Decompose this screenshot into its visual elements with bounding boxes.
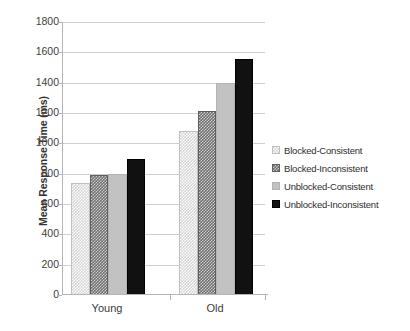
legend-label: Unblocked-Consistent: [284, 181, 373, 192]
y-tick-label: 1400: [19, 77, 59, 88]
bar-old-blocked-consistent: [179, 131, 198, 295]
legend-label: Blocked-Consistent: [284, 145, 362, 156]
legend-swatch-icon: [272, 164, 280, 172]
bar-old-blocked-inconsistent: [198, 111, 217, 295]
x-category-label: Old: [170, 302, 260, 314]
legend-swatch-icon: [272, 200, 280, 208]
bar-young-blocked-inconsistent: [90, 175, 109, 295]
legend-swatch-icon: [272, 146, 280, 154]
y-tick-label: 400: [19, 228, 59, 239]
legend-item: Unblocked-Inconsistent: [272, 196, 378, 212]
y-tick-mark: [57, 295, 62, 296]
x-axis-separator: [170, 295, 171, 300]
legend: Blocked-ConsistentBlocked-InconsistentUn…: [272, 142, 378, 214]
y-tick-label: 800: [19, 168, 59, 179]
bar-old-unblocked-consistent: [216, 83, 235, 295]
y-tick-label: 1600: [19, 46, 59, 57]
legend-item: Blocked-Consistent: [272, 142, 378, 158]
y-tick-label: 200: [19, 259, 59, 270]
bar-young-blocked-consistent: [71, 183, 90, 295]
x-category-label: Young: [62, 302, 152, 314]
x-axis-line: [62, 294, 268, 295]
y-axis-title: Mean Response Time (ms): [37, 71, 49, 251]
legend-item: Blocked-Inconsistent: [272, 160, 378, 176]
bar-chart: Mean Response Time (ms) 1800160014001200…: [0, 0, 410, 331]
bar-old-unblocked-inconsistent: [235, 59, 254, 295]
plot-area: [62, 22, 265, 295]
bar-young-unblocked-inconsistent: [127, 159, 146, 296]
y-tick-label: 1800: [19, 16, 59, 27]
legend-item: Unblocked-Consistent: [272, 178, 378, 194]
y-tick-label: 0: [19, 289, 59, 300]
y-tick-label: 600: [19, 198, 59, 209]
legend-label: Unblocked-Inconsistent: [284, 199, 378, 210]
legend-swatch-icon: [272, 182, 280, 190]
y-tick-label: 1200: [19, 107, 59, 118]
y-tick-label: 1000: [19, 137, 59, 148]
x-axis-separator: [265, 295, 266, 300]
bar-young-unblocked-consistent: [108, 174, 127, 295]
legend-label: Blocked-Inconsistent: [284, 163, 368, 174]
